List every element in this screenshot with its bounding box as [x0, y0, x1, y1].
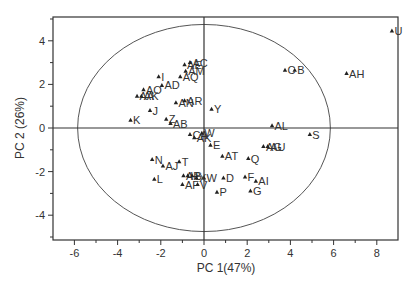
point-label: B: [297, 64, 304, 76]
point-label: P: [219, 186, 226, 198]
data-point: J: [148, 105, 158, 117]
point-label: E: [213, 139, 220, 151]
plot-canvas: -6-4-202468 -4-2024 UAHCBALSAGAUQFAIGATE…: [0, 0, 419, 286]
point-label: AH: [349, 68, 364, 80]
point-label: K: [133, 114, 141, 126]
data-point: N: [150, 154, 163, 166]
data-points: UAHCBALSAGAUQFAIGATEDPWYAEACAMAQIADAOAAA…: [128, 25, 402, 198]
x-tick-label: -6: [70, 247, 80, 259]
y-axis: -4-2024: [35, 19, 53, 237]
point-label: Y: [214, 103, 222, 115]
point-label: AQ: [183, 71, 199, 83]
y-tick-label: 4: [39, 35, 45, 47]
x-tick-label: 2: [244, 247, 250, 259]
data-point: K: [128, 114, 141, 126]
data-point: D: [221, 172, 234, 184]
point-label: F: [248, 171, 255, 183]
data-point: AL: [270, 120, 288, 132]
x-axis: -6-4-202468: [70, 240, 380, 259]
y-tick-label: -2: [35, 166, 45, 178]
data-point: AQ: [178, 71, 199, 83]
y-tick-label: 2: [39, 78, 45, 90]
point-label: AJ: [165, 160, 178, 172]
data-point: F: [243, 171, 255, 183]
point-label: AD: [164, 79, 179, 91]
point-label: J: [153, 105, 159, 117]
point-label: AT: [225, 150, 239, 162]
point-label: AU: [270, 141, 285, 153]
point-label: AR: [187, 95, 202, 107]
y-axis-label: PC 2 (26%): [13, 97, 27, 159]
x-tick-label: 6: [331, 247, 337, 259]
point-label: S: [312, 129, 319, 141]
point-label: W: [207, 172, 218, 184]
data-point: P: [215, 186, 227, 198]
data-point: Q: [246, 153, 260, 165]
data-point: AJ: [161, 160, 179, 172]
y-tick-label: 0: [39, 122, 45, 134]
data-point: G: [248, 185, 261, 197]
zero-reference-lines: [53, 17, 398, 240]
data-point: AT: [220, 150, 238, 162]
point-label: D: [226, 172, 234, 184]
data-point: I: [156, 71, 164, 83]
point-label: L: [157, 173, 163, 185]
point-label: AB: [173, 118, 188, 130]
data-point: U: [390, 25, 403, 37]
point-label: G: [253, 185, 262, 197]
point-label: N: [155, 154, 163, 166]
x-tick-label: 4: [287, 247, 293, 259]
x-tick-label: 8: [374, 247, 380, 259]
point-label: T: [182, 156, 189, 168]
x-tick-label: 0: [201, 247, 207, 259]
point-label: AL: [275, 120, 288, 132]
data-point: T: [177, 156, 189, 168]
data-point: AH: [344, 68, 364, 80]
data-point: L: [152, 173, 163, 185]
point-label: AK: [144, 90, 159, 102]
point-label: U: [394, 25, 402, 37]
data-point: Y: [209, 103, 222, 115]
x-tick-label: -4: [113, 247, 123, 259]
point-label: X: [199, 172, 207, 184]
x-axis-label: PC 1(47%): [197, 261, 256, 275]
data-point: S: [308, 129, 320, 141]
y-tick-label: -4: [35, 209, 45, 221]
x-tick-label: -2: [156, 247, 166, 259]
pca-score-plot: -6-4-202468 -4-2024 UAHCBALSAGAUQFAIGATE…: [0, 0, 419, 286]
point-label: W: [204, 127, 215, 139]
point-label: Q: [251, 153, 260, 165]
